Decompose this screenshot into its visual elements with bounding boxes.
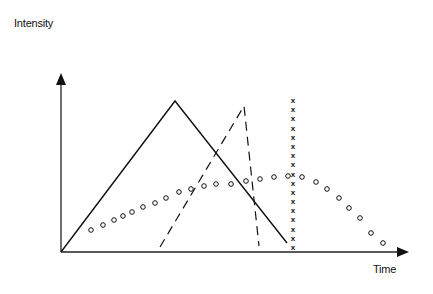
circle-marker-icon (101, 223, 106, 228)
circle-marker-icon (141, 205, 146, 210)
circle-marker-icon (314, 180, 319, 185)
circle-marker-icon (164, 196, 169, 201)
x-axis (61, 247, 409, 257)
circle-marker-icon (112, 218, 117, 223)
x-marker-icon: x (291, 215, 296, 224)
circle-marker-icon (369, 231, 374, 236)
x-marker-icon: x (291, 114, 296, 123)
dashed-triangle-line (160, 106, 259, 247)
circle-marker-icon (337, 196, 342, 201)
circle-marker-icon (130, 210, 135, 215)
x-marker-icon: x (291, 170, 296, 179)
circle-marker-icon (272, 175, 277, 180)
x-axis-label: Time (373, 263, 396, 275)
y-axis (56, 73, 66, 252)
x-marker-icon: x (291, 142, 296, 151)
circle-marker-icon (153, 201, 158, 206)
x-axis-arrow-icon (397, 247, 409, 257)
circle-marker-icon (325, 187, 330, 192)
circle-marker-icon (202, 184, 207, 189)
x-marker-icon: x (291, 160, 296, 169)
intensity-time-diagram: xxxxxxxxxxxxxxxxx Intensity Time (0, 0, 433, 294)
x-marker-icon: x (291, 96, 296, 105)
circle-marker-icon (381, 241, 386, 246)
x-marker-icon: x (291, 188, 296, 197)
x-marker-icon: x (291, 124, 296, 133)
circle-marker-icon (89, 228, 94, 233)
circle-marker-icon (358, 216, 363, 221)
x-marker-icon: x (291, 197, 296, 206)
series-layer: xxxxxxxxxxxxxxxxx (61, 96, 385, 252)
plot-area: xxxxxxxxxxxxxxxxx (0, 0, 433, 294)
circle-marker-icon (300, 175, 305, 180)
circle-marker-icon (214, 182, 219, 187)
x-marker-icon: x (291, 234, 296, 243)
x-marker-icon: x (291, 206, 296, 215)
x-marker-icon: x (291, 225, 296, 234)
circle-marker-icon (244, 179, 249, 184)
x-marker-icon: x (291, 243, 296, 252)
circle-marker-icon (177, 190, 182, 195)
x-marker-icon: x (291, 151, 296, 160)
y-axis-arrow-icon (56, 73, 66, 85)
circle-marker-icon (258, 177, 263, 182)
circle-marker-icon (347, 206, 352, 211)
circle-marker-icon (121, 214, 126, 219)
circle-marker-icon (189, 187, 194, 192)
solid-triangle-line (61, 101, 287, 252)
circle-marker-icon (286, 174, 291, 179)
x-marker-icon: x (291, 133, 296, 142)
x-marker-icon: x (291, 179, 296, 188)
circle-marker-icon (229, 182, 234, 187)
y-axis-label: Intensity (14, 17, 53, 29)
x-marker-icon: x (291, 105, 296, 114)
